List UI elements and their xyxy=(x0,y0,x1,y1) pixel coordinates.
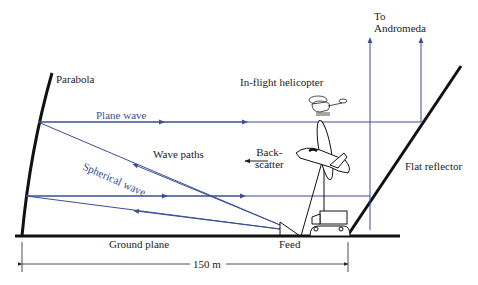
truck xyxy=(310,211,350,236)
feed-label: Feed xyxy=(279,238,300,250)
helicopter-label: In-flight helicopter xyxy=(240,76,323,88)
wave-paths-label: Wave paths xyxy=(153,148,204,160)
helicopter xyxy=(309,96,347,115)
flat-reflector xyxy=(348,66,461,235)
diagram-canvas xyxy=(0,0,478,285)
feed-horn xyxy=(280,222,300,236)
plane-wave-label: Plane wave xyxy=(96,109,146,121)
parabola-reflector xyxy=(22,73,52,236)
to-andromeda-label: ToAndromeda xyxy=(374,10,426,34)
flat-reflector-label: Flat reflector xyxy=(405,160,462,172)
parabola-label: Parabola xyxy=(56,73,94,85)
backscatter-label: Back-scatter xyxy=(255,146,284,170)
ray-paths xyxy=(26,40,421,230)
distance-label: 150 m xyxy=(193,258,221,270)
ground-plane-label: Ground plane xyxy=(109,238,169,250)
